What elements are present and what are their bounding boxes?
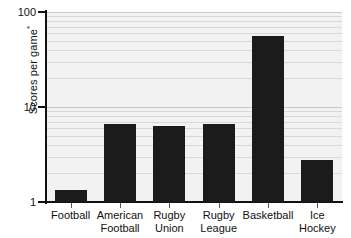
gridline (46, 128, 342, 129)
plot-area (46, 12, 342, 202)
gridline (46, 145, 342, 146)
y-axis-tick: 10 (0, 100, 46, 114)
gridline (46, 33, 342, 34)
y-axis-tick-label: 100 (18, 5, 36, 19)
plot-background (46, 12, 342, 202)
gridline (46, 111, 342, 112)
bar (104, 124, 136, 202)
gridline (46, 16, 342, 17)
gridline (46, 107, 342, 108)
y-axis-tick-label: 1 (30, 195, 36, 209)
gridline (46, 12, 342, 13)
y-axis-tick-mark (38, 201, 45, 203)
gridline (46, 173, 342, 174)
x-axis-tick-mark (268, 203, 269, 208)
gridline (46, 157, 342, 158)
bar (55, 190, 87, 202)
x-axis-tick-mark (169, 203, 170, 208)
gridline (46, 41, 342, 42)
bar (252, 36, 284, 202)
gridline (46, 78, 342, 79)
bar (203, 124, 235, 202)
y-axis-title: Scores per game* (25, 0, 41, 165)
x-axis-tick-label: Ice Hockey (287, 209, 348, 235)
gridline (46, 27, 342, 28)
y-axis-title-footnote-marker: * (25, 26, 34, 29)
gridline (46, 136, 342, 137)
bar (153, 126, 185, 202)
bar (301, 160, 333, 202)
gridline (46, 50, 342, 51)
gridline (46, 116, 342, 117)
x-axis-tick-mark (219, 203, 220, 208)
x-axis-tick-mark (317, 203, 318, 208)
y-axis-tick: 100 (0, 5, 46, 19)
x-axis-tick-mark (71, 203, 72, 208)
y-axis-tick: 1 (0, 195, 46, 209)
gridline (46, 122, 342, 123)
gridline (46, 21, 342, 22)
y-axis-tick-label: 10 (24, 100, 36, 114)
y-axis-tick-mark (38, 106, 45, 108)
x-axis-tick-mark (120, 203, 121, 208)
x-axis-spine (45, 201, 343, 203)
y-axis-tick-mark (38, 11, 45, 13)
gridline (46, 62, 342, 63)
bar-chart-figure: Scores per game* 100101 FootballAmerican… (0, 0, 351, 238)
